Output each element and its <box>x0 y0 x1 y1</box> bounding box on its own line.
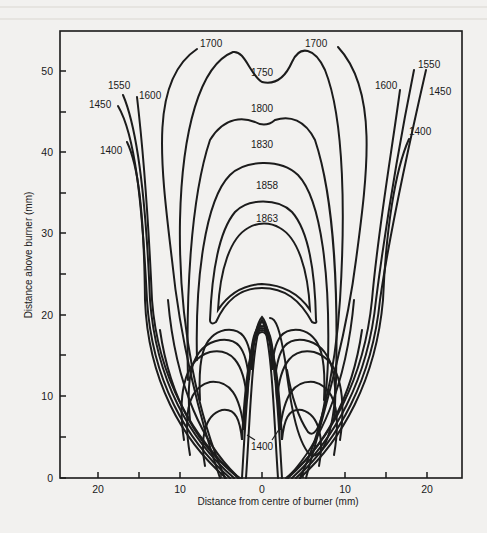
label-1800: 1800 <box>251 103 274 114</box>
label-1863: 1863 <box>256 213 279 224</box>
x-tick-left-20: 20 <box>92 483 104 495</box>
label-1700-left: 1700 <box>200 38 223 49</box>
x-tick-left-10: 10 <box>174 483 186 495</box>
y-tick-20: 20 <box>41 309 53 321</box>
plot-frame <box>60 31 462 478</box>
label-1550-left: 1550 <box>108 80 131 91</box>
label-1600-right: 1600 <box>375 80 398 91</box>
y-tick-30: 30 <box>41 227 53 239</box>
label-1400-left: 1400 <box>100 145 123 156</box>
label-1550-right: 1550 <box>418 59 441 70</box>
label-1700-right: 1700 <box>305 38 328 49</box>
contour-1700-left <box>162 49 220 478</box>
label-1858: 1858 <box>256 180 279 191</box>
label-1400-bottom: 1400 <box>251 441 274 452</box>
x-axis-tick-labels: 20 10 0 10 20 <box>92 483 433 495</box>
x-tick-right-10: 10 <box>339 483 351 495</box>
x-axis-ticks <box>98 472 427 478</box>
x-axis-title: Distance from centre of burner (mm) <box>197 496 358 507</box>
label-1450-right: 1450 <box>429 86 452 97</box>
contour-inner-a <box>200 322 325 400</box>
y-axis-ticks <box>60 71 66 478</box>
label-1400-right: 1400 <box>409 126 432 137</box>
x-tick-right-20: 20 <box>421 483 433 495</box>
y-axis-title: Distance above burner (mm) <box>23 192 34 319</box>
label-1750: 1750 <box>251 67 274 78</box>
contour-1750 <box>180 51 343 478</box>
contour-1863 <box>218 224 310 311</box>
y-tick-40: 40 <box>41 146 53 158</box>
label-1830: 1830 <box>251 139 274 150</box>
label-1450-left: 1450 <box>89 99 112 110</box>
contour-1450-right <box>296 70 426 478</box>
contour-center-spike <box>246 320 278 478</box>
x-tick-0: 0 <box>259 483 265 495</box>
y-tick-50: 50 <box>41 65 53 77</box>
y-tick-10: 10 <box>41 390 53 402</box>
contour-inner-b <box>189 326 336 420</box>
y-axis-tick-labels: 0 10 20 30 40 50 <box>41 65 53 484</box>
label-1600-left: 1600 <box>139 90 162 101</box>
y-tick-0: 0 <box>47 472 53 484</box>
contour-chart: 0 10 20 30 40 50 Distance above burner (… <box>0 0 487 533</box>
